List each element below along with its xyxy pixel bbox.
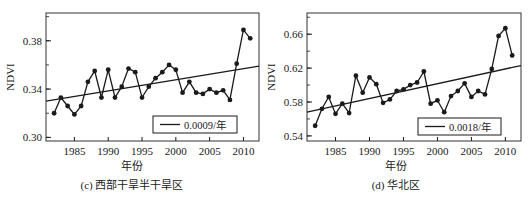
y-tick-label: 0.54 [284, 130, 304, 142]
data-point [415, 80, 420, 85]
ndvi-series-line [315, 28, 512, 125]
data-point [374, 82, 379, 87]
data-point [449, 94, 454, 99]
y-tick-label: 0.38 [23, 35, 43, 47]
data-point [442, 110, 447, 115]
data-point [354, 73, 359, 78]
data-point [113, 95, 118, 100]
trend-line [307, 66, 521, 113]
data-point [72, 112, 77, 117]
x-tick-label: 2005 [199, 145, 222, 157]
x-tick-label: 2005 [460, 145, 483, 157]
data-point [86, 79, 91, 84]
data-point [167, 63, 172, 68]
data-point [248, 36, 253, 41]
data-point [469, 95, 474, 100]
data-point [106, 67, 111, 72]
data-point [340, 101, 345, 106]
data-point [228, 98, 233, 103]
data-point [133, 70, 138, 75]
data-point [394, 89, 399, 94]
data-point [200, 92, 205, 97]
data-point [153, 76, 158, 81]
x-tick-label: 1990 [359, 145, 382, 157]
data-point [496, 33, 501, 38]
data-point [207, 87, 212, 92]
data-point [381, 100, 386, 105]
data-point [326, 95, 331, 100]
data-point [58, 95, 63, 100]
data-point [146, 84, 151, 89]
y-tick-label: 0.58 [284, 96, 304, 108]
y-axis-label: NDVI [265, 63, 277, 91]
data-point [214, 90, 219, 95]
x-axis-label: 年份 [264, 157, 528, 173]
x-tick-label: 2000 [426, 145, 449, 157]
x-axis-label: 年份 [0, 157, 264, 173]
panel-caption: (c) 西部干旱半干旱区 [0, 176, 264, 192]
data-point [79, 104, 84, 109]
data-point [510, 53, 515, 58]
y-tick-label: 0.30 [23, 131, 43, 143]
data-point [333, 111, 338, 116]
data-point [320, 106, 325, 111]
data-point [421, 69, 426, 74]
data-point [483, 92, 488, 97]
data-point [119, 84, 124, 89]
data-point [92, 69, 97, 74]
data-point [408, 83, 413, 88]
data-point [462, 81, 467, 86]
data-point [234, 61, 239, 66]
data-point [194, 90, 199, 95]
data-point [65, 104, 70, 109]
x-tick-label: 2010 [232, 145, 255, 157]
x-tick-label: 2010 [494, 145, 517, 157]
x-tick-label: 1985 [63, 145, 86, 157]
y-axis-label: NDVI [4, 63, 16, 91]
data-point [173, 67, 178, 72]
x-tick-label: 1995 [131, 145, 154, 157]
data-point [140, 95, 145, 100]
x-tick-label: 1995 [392, 145, 415, 157]
data-point [52, 111, 57, 116]
data-point [126, 66, 131, 71]
data-point [428, 101, 433, 106]
y-tick-label: 0.62 [284, 62, 303, 74]
data-point [347, 111, 352, 116]
data-point [221, 88, 226, 93]
y-tick-label: 0.34 [23, 83, 43, 95]
data-point [241, 28, 246, 33]
data-point [180, 90, 185, 95]
data-point [313, 123, 318, 128]
chart-panel-c: 0.300.340.38198519901995200020052010NDVI… [0, 0, 264, 197]
data-point [387, 97, 392, 102]
legend-label: 0.0009/年 [184, 119, 226, 131]
data-point [160, 70, 165, 75]
data-point [435, 98, 440, 103]
data-point [455, 89, 460, 94]
x-tick-label: 2000 [165, 145, 188, 157]
data-point [503, 26, 508, 31]
data-point [367, 75, 372, 80]
panel-caption: (d) 华北区 [264, 176, 528, 192]
data-point [360, 90, 365, 95]
x-tick-label: 1985 [325, 145, 348, 157]
data-point [401, 87, 406, 92]
legend-label: 0.0018/年 [449, 121, 491, 133]
y-tick-label: 0.66 [284, 28, 304, 40]
chart-panel-d: 0.540.580.620.66198519901995200020052010… [264, 0, 528, 197]
data-point [99, 95, 104, 100]
data-point [187, 79, 192, 84]
x-tick-label: 1990 [97, 145, 120, 157]
data-point [476, 89, 481, 94]
data-point [489, 67, 494, 72]
